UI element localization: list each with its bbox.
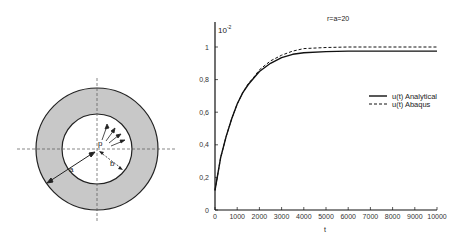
x-tick-label: 6000 bbox=[340, 213, 356, 220]
x-tick-label: 8000 bbox=[385, 213, 401, 220]
pressure-label: p bbox=[98, 139, 103, 148]
series-lines bbox=[215, 47, 437, 190]
figure: p a b 0100020003000400050006000700080009… bbox=[0, 0, 467, 241]
x-tick-label: 2000 bbox=[252, 213, 268, 220]
x-axis-label: t bbox=[324, 226, 326, 233]
x-tick-label: 0 bbox=[213, 213, 217, 220]
x-tick-label: 1000 bbox=[229, 213, 245, 220]
x-tick-label: 4000 bbox=[296, 213, 312, 220]
y-tick-label: 0,4 bbox=[199, 141, 209, 148]
y-tick-label: 0 bbox=[205, 207, 209, 214]
outer-radius-label: a bbox=[69, 165, 74, 174]
y-tick-label: 0,6 bbox=[199, 109, 209, 116]
y-tick-label: 1 bbox=[205, 44, 209, 51]
x-tick-label: 5000 bbox=[318, 213, 334, 220]
analytical-line bbox=[215, 51, 437, 190]
cylinder-diagram: p a b bbox=[17, 78, 177, 222]
legend: u(t) Analytical u(t) Abaqus bbox=[369, 92, 437, 109]
chart: 0100020003000400050006000700080009000100… bbox=[199, 15, 447, 233]
scale-factor: 10-2 bbox=[218, 24, 232, 35]
legend-item-abaqus: u(t) Abaqus bbox=[392, 100, 431, 109]
y-tick-label: 0,8 bbox=[199, 76, 209, 83]
inner-radius-label: b bbox=[110, 159, 115, 168]
annotation-text: r=a=20 bbox=[327, 15, 349, 22]
x-tick-label: 9000 bbox=[407, 213, 423, 220]
x-tick-label: 10000 bbox=[427, 213, 447, 220]
scale-exponent: -2 bbox=[227, 24, 232, 30]
abaqus-line bbox=[215, 47, 437, 190]
y-tick-label: 0,2 bbox=[199, 174, 209, 181]
x-tick-label: 7000 bbox=[363, 213, 379, 220]
x-tick-label: 3000 bbox=[274, 213, 290, 220]
